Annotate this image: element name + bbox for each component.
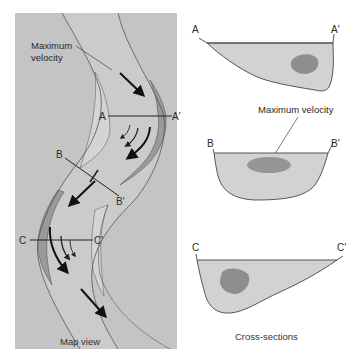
section-a-bank-right <box>333 34 334 43</box>
map-view-panel: Maximum velocity A A′ B B′ C C′ Map view <box>15 13 181 349</box>
section-b-max-velocity-zone <box>247 157 291 173</box>
map-label-a: A <box>99 111 106 122</box>
cross-section-a: A A′ <box>192 24 340 91</box>
cross-section-c: C C′ <box>192 242 346 313</box>
section-c-channel <box>197 260 337 313</box>
section-max-velocity-label: Maximum velocity <box>258 104 334 115</box>
section-c-bank-right <box>337 256 343 260</box>
map-label-c: C <box>19 235 26 246</box>
section-b-bank-left <box>213 149 214 153</box>
map-label-b: B <box>56 149 63 160</box>
section-b-label-start: B <box>207 138 214 149</box>
cross-section-b: B B′ <box>207 138 340 200</box>
section-c-label-end: C′ <box>337 242 346 253</box>
cross-sections-caption: Cross-sections <box>235 331 298 342</box>
map-max-velocity-label-line2: velocity <box>31 52 63 63</box>
map-label-c-prime: C′ <box>94 235 103 246</box>
map-max-velocity-label-line1: Maximum <box>31 40 72 51</box>
map-label-b-prime: B′ <box>116 196 125 207</box>
cross-sections-panel: A A′ Maximum velocity B B′ C C′ <box>192 24 346 342</box>
map-view-caption: Map view <box>60 336 100 347</box>
map-label-a-prime: A′ <box>172 111 181 122</box>
section-c-bank-left <box>196 254 197 260</box>
section-a-label-end: A′ <box>331 24 340 35</box>
section-c-label-start: C <box>192 242 199 253</box>
section-a-label-start: A <box>192 24 199 35</box>
meander-velocity-diagram: Maximum velocity A A′ B B′ C C′ Map view… <box>0 0 360 363</box>
